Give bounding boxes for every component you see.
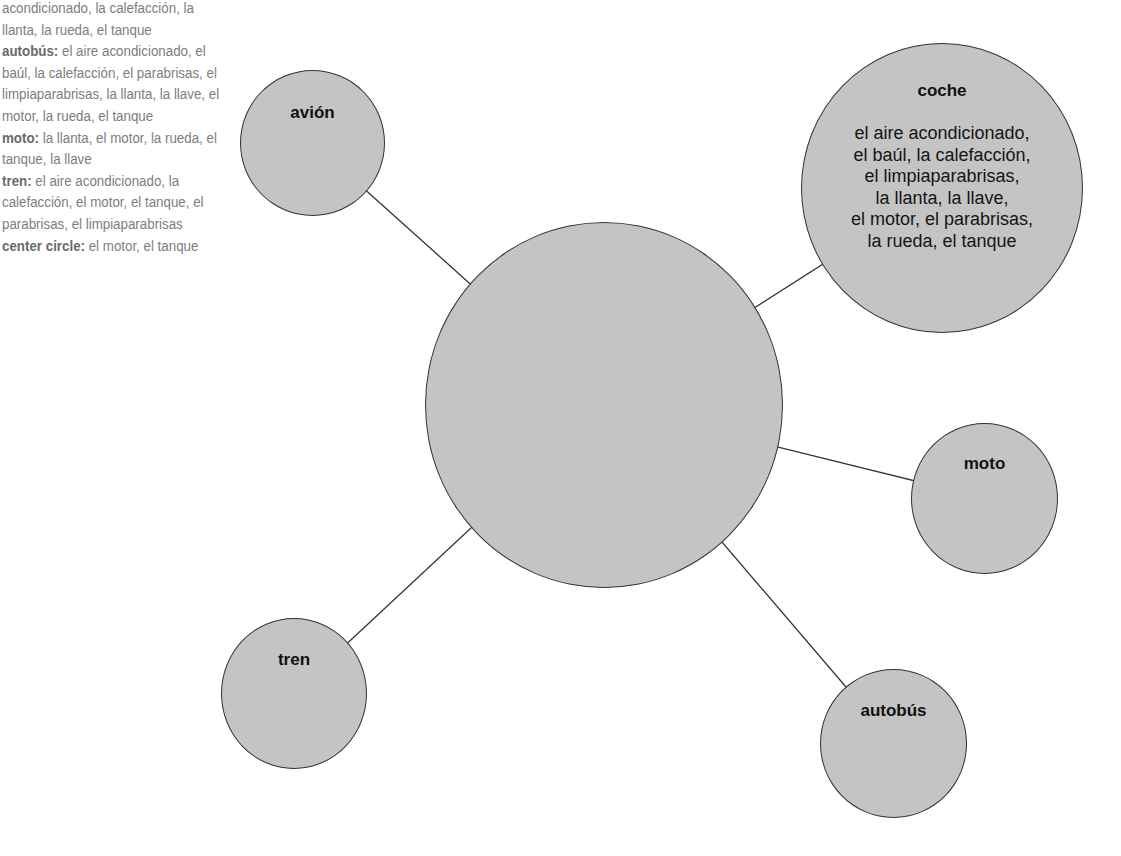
node-avion: avión: [240, 70, 385, 216]
node-title: autobús: [821, 701, 966, 721]
node-title: avión: [241, 103, 384, 123]
node-title: coche: [802, 81, 1082, 101]
node-coche: coche el aire acondicionado, el baúl, la…: [801, 43, 1083, 333]
node-autobus: autobús: [820, 669, 967, 818]
node-tren: tren: [221, 618, 367, 769]
node-body: el aire acondicionado, el baúl, la calef…: [802, 123, 1082, 252]
node-title: moto: [912, 454, 1057, 474]
center-circle: [425, 222, 783, 588]
node-moto: moto: [911, 423, 1058, 574]
node-title: tren: [222, 650, 366, 670]
